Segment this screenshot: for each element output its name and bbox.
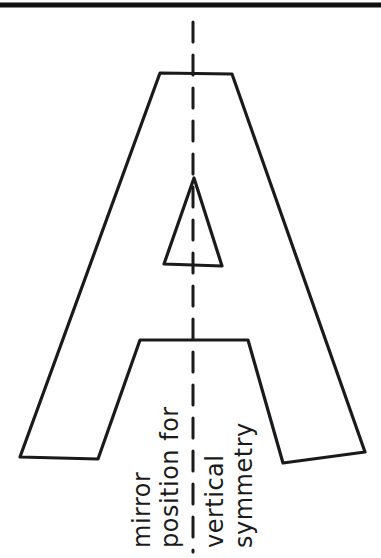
annotation-line-vertical: vertical (201, 455, 229, 548)
annotation-line-mirror: mirror (128, 472, 156, 548)
diagram-canvas: mirror position for vertical symmetry (0, 0, 381, 558)
annotation-line-position-for: position for (156, 406, 184, 548)
annotation-right: vertical symmetry (201, 422, 258, 548)
annotation-line-symmetry: symmetry (230, 422, 258, 548)
annotation-left: mirror position for (128, 406, 184, 548)
